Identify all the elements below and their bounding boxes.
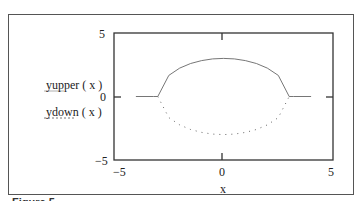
legend-lower: ydown ( x ) — [46, 106, 102, 118]
x-axis-label: x — [220, 183, 226, 195]
series-ydown — [158, 97, 289, 135]
x-tick-left: −5 — [113, 166, 126, 178]
x-tick-right: 5 — [328, 166, 334, 178]
series-yupper — [136, 58, 311, 96]
legend-upper: yupper ( x ) — [46, 79, 102, 91]
y-tick-mid: 0 — [100, 91, 106, 103]
y-tick-top: 5 — [99, 28, 105, 40]
figure-caption: Figure 5 — [12, 196, 55, 201]
y-tick-bottom: −5 — [95, 155, 108, 167]
plot-area — [0, 0, 362, 201]
x-tick-mid: 0 — [219, 166, 225, 178]
